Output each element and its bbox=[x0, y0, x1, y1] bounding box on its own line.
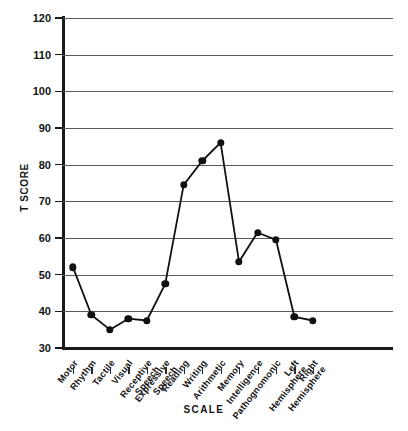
y-tick-label-50: 50 bbox=[39, 269, 51, 281]
y-tick-label-110: 110 bbox=[33, 49, 51, 61]
y-tick-label-60: 60 bbox=[39, 232, 51, 244]
y-tick-label-120: 120 bbox=[33, 12, 51, 24]
y-tick-label-70: 70 bbox=[39, 195, 51, 207]
y-axis-title: T SCORE bbox=[19, 143, 30, 233]
t-score-profile-chart: T SCORE 30405060708090100110120 MotorRhy… bbox=[0, 0, 408, 431]
y-tick-label-30: 30 bbox=[39, 342, 51, 354]
y-tick-label-90: 90 bbox=[39, 122, 51, 134]
y-tick-label-100: 100 bbox=[33, 85, 51, 97]
plot-area: 30405060708090100110120 bbox=[62, 18, 393, 348]
data-line-svg bbox=[62, 18, 393, 348]
y-tick-label-80: 80 bbox=[39, 159, 51, 171]
y-tick-label-40: 40 bbox=[39, 305, 51, 317]
x-axis-title: SCALE bbox=[0, 404, 408, 415]
